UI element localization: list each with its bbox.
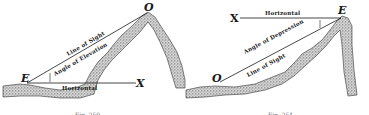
point-x-right: X bbox=[230, 12, 239, 25]
terrain-right bbox=[186, 16, 357, 98]
label-horizontal-left: Horizontal bbox=[62, 85, 97, 91]
point-o-right: O bbox=[212, 72, 222, 85]
diagram-canvas: E O X Line of Sight Angle of Elevation H… bbox=[0, 0, 369, 115]
line-of-sight-left bbox=[27, 13, 147, 83]
point-o-left: O bbox=[144, 1, 154, 14]
label-angle-of-depression: Angle of Depression bbox=[242, 18, 305, 56]
point-e-left: E bbox=[20, 72, 30, 85]
figure-angle-of-depression: X E O Horizontal Angle of Depression Lin… bbox=[186, 4, 357, 115]
label-horizontal-right: Horizontal bbox=[265, 10, 300, 16]
figure-angle-of-elevation: E O X Line of Sight Angle of Elevation H… bbox=[3, 1, 185, 115]
point-x-left: X bbox=[135, 77, 145, 90]
caption-right: Fig. 251 bbox=[268, 111, 293, 115]
caption-left: Fig. 250 bbox=[75, 111, 100, 115]
line-of-sight-right bbox=[220, 18, 341, 82]
point-e-right: E bbox=[337, 4, 347, 17]
